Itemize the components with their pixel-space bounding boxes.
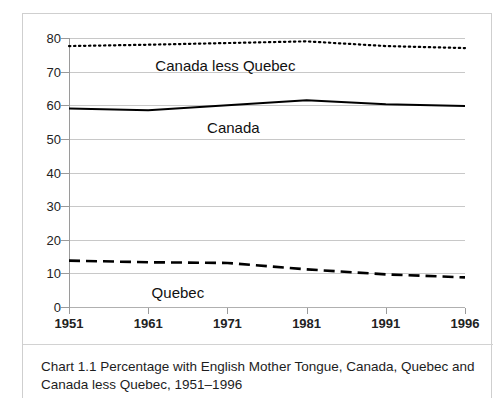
x-axis: 195119611971198119911996 [69,316,465,334]
series-label-canada-less-quebec: Canada less Quebec [155,57,295,74]
chart-plot: 01020304050607080 Canada less QuebecCana… [23,14,493,334]
figure-frame: 01020304050607080 Canada less QuebecCana… [22,13,492,398]
x-axis-tick [69,308,70,314]
x-axis-tick [307,308,308,314]
x-axis-tick [386,308,387,314]
x-axis-tick-label: 1961 [134,316,163,331]
x-axis-tick-label: 1981 [292,316,321,331]
series-label-quebec: Quebec [152,284,205,301]
caption-divider [23,344,493,345]
x-axis-ticks [69,308,465,314]
x-axis-tick-label: 1971 [213,316,242,331]
series-label-canada: Canada [207,119,260,136]
x-axis-tick-label: 1951 [55,316,84,331]
x-axis-tick [148,308,149,314]
x-axis-tick [465,308,466,314]
x-axis-tick-label: 1991 [371,316,400,331]
series-annotations: Canada less QuebecCanadaQuebec [23,14,493,334]
chart-caption: Chart 1.1 Percentage with English Mother… [41,358,475,394]
x-axis-tick-label: 1996 [451,316,480,331]
x-axis-tick [227,308,228,314]
